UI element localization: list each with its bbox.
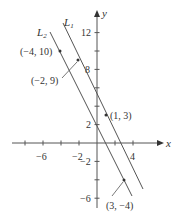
point-label: (3, −4) [106,200,133,212]
x-tick-label: −6 [36,151,47,162]
point-marker [105,114,108,117]
line-l1 [63,23,143,189]
y-axis [95,16,100,208]
line-l2-label: L2 [36,26,47,40]
leader-line [62,62,77,78]
y-tick-label: −6 [80,193,91,204]
x-tick-label: 4 [130,151,135,162]
y-tick-label: 2 [86,119,91,130]
line-l1-label: L1 [63,16,74,30]
x-axis-arrow-icon [157,140,164,146]
point-label: (−2, 9) [31,75,58,87]
point-label: (1, 3) [110,110,132,122]
y-axis-arrow-icon [94,10,100,17]
leader-line [112,182,123,196]
y-tick-label: −2 [80,156,91,167]
y-tick-label: 12 [81,27,91,38]
x-axis [12,141,160,146]
y-axis-label: y [101,7,107,19]
coordinate-plane: x y −6 −2 4 12 8 2 −2 −6 L1 L2 (−4, 10) … [0,0,175,220]
point-marker [59,50,62,53]
point-marker [123,179,126,182]
point-label: (−4, 10) [20,46,52,58]
point-marker [77,59,80,62]
x-axis-label: x [165,137,171,149]
